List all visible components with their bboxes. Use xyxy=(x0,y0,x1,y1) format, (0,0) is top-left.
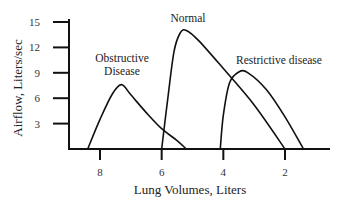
series-curves xyxy=(88,30,304,149)
x-axis-title: Lung Volumes, Liters xyxy=(134,182,247,197)
annotation-restrictive: Restrictive disease xyxy=(236,54,322,66)
y-ticks xyxy=(53,22,69,124)
x-tick-labels: 8642 xyxy=(97,166,288,178)
y-tick-label: 9 xyxy=(35,67,41,79)
x-ticks xyxy=(100,149,285,160)
x-tick-label: 2 xyxy=(282,166,288,178)
y-tick-label: 12 xyxy=(29,41,40,53)
flow-volume-chart: 3691215 8642 Lung Volumes, Liters Airflo… xyxy=(0,0,343,207)
x-tick-label: 6 xyxy=(159,166,165,178)
x-tick-label: 8 xyxy=(97,166,103,178)
y-tick-label: 3 xyxy=(35,118,41,130)
annotation-normal: Normal xyxy=(170,12,205,24)
y-tick-label: 15 xyxy=(29,16,41,28)
curve-restrictive-disease xyxy=(220,71,303,149)
y-tick-labels: 3691215 xyxy=(29,16,41,130)
y-tick-label: 6 xyxy=(35,92,41,104)
annotation-obstructive: ObstructiveDisease xyxy=(95,52,149,77)
y-axis-title: Airflow, Liters/sec xyxy=(10,39,25,137)
series-annotations: ObstructiveDisease Normal Restrictive di… xyxy=(95,12,322,77)
x-tick-label: 4 xyxy=(221,166,227,178)
curve-obstructive-disease xyxy=(88,85,187,149)
